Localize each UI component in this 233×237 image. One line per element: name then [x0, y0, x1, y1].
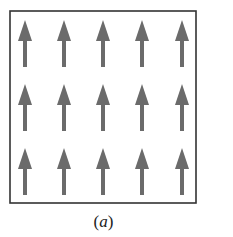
up-arrow-icon — [135, 84, 149, 131]
arrow-field-diagram — [0, 0, 233, 237]
up-arrow-icon — [57, 148, 71, 195]
up-arrow-icon — [18, 20, 32, 67]
caption-letter: a — [99, 212, 108, 231]
up-arrow-icon — [175, 84, 189, 131]
up-arrow-icon — [96, 148, 110, 195]
up-arrow-icon — [57, 20, 71, 67]
up-arrow-icon — [135, 20, 149, 67]
up-arrow-icon — [175, 20, 189, 67]
up-arrow-icon — [96, 20, 110, 67]
up-arrow-icon — [175, 148, 189, 195]
figure-caption: (a) — [0, 212, 207, 232]
caption-close-paren: ) — [108, 212, 114, 231]
up-arrow-icon — [57, 84, 71, 131]
up-arrow-icon — [96, 84, 110, 131]
arrow-grid — [18, 20, 189, 195]
up-arrow-icon — [18, 148, 32, 195]
up-arrow-icon — [18, 84, 32, 131]
up-arrow-icon — [135, 148, 149, 195]
